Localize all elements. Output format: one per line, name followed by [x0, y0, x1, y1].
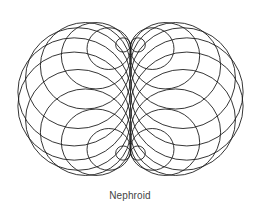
figure-caption: Nephroid	[0, 190, 260, 201]
construction-circle	[131, 89, 221, 176]
construction-circle	[131, 23, 200, 89]
envelope-circles	[18, 23, 243, 176]
construction-circle	[61, 23, 130, 89]
construction-circle	[40, 23, 130, 110]
construction-circle	[61, 109, 130, 175]
construction-circle	[40, 89, 130, 176]
construction-circle	[131, 23, 221, 110]
nephroid-diagram	[0, 0, 260, 185]
construction-circle	[131, 109, 200, 175]
